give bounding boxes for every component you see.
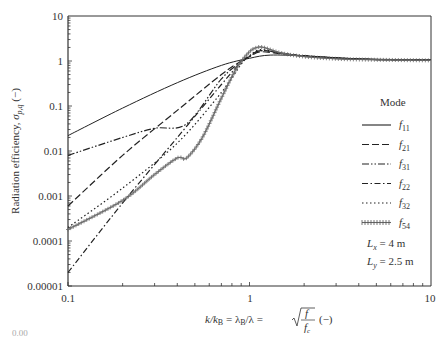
dim-lx: Lx = 4 m [366, 237, 406, 252]
legend: Mode f11f21f31f22f32f54 [362, 96, 410, 231]
y-axis-title: Radiation efficiency, σp,q (−) [9, 88, 24, 214]
x-tick-10: 10 [425, 292, 437, 304]
legend-label: f31 [399, 157, 410, 172]
x-tick-1: 1 [247, 292, 253, 304]
x-axis-title: k/kB = λB/λ = f fc (−) [205, 307, 333, 335]
y-tick-0.001: 0.001 [38, 190, 63, 202]
y-tick-0.1: 0.1 [49, 100, 63, 112]
series-f31 [68, 51, 431, 156]
legend-item-f11: f11 [362, 118, 410, 133]
x-tick-0.1: 0.1 [61, 292, 75, 304]
y-tick-0.00001: 0.00001 [27, 280, 63, 292]
legend-label: f21 [399, 138, 410, 153]
svg-text:(−): (−) [319, 313, 333, 326]
series-f21 [68, 52, 431, 206]
legend-label: f54 [399, 216, 410, 231]
cropped-text: 0.00 [12, 328, 28, 337]
svg-text:k/kB = λB/λ =: k/kB = λB/λ = [205, 313, 263, 327]
plate-dimensions: Lx = 4 m Ly = 2.5 m [366, 237, 414, 270]
svg-text:fc: fc [304, 321, 311, 335]
legend-item-f32: f32 [362, 196, 410, 211]
x-axis-tick-labels: 0.1 1 10 [61, 292, 436, 304]
series-f54 [66, 45, 431, 231]
radiation-efficiency-chart: 10 1 0.1 0.01 0.001 0.0001 0.00001 0.1 1… [0, 0, 444, 337]
svg-text:f: f [305, 307, 310, 319]
legend-item-f21: f21 [362, 138, 410, 153]
y-tick-0.01: 0.01 [44, 145, 63, 157]
legend-label: f32 [399, 196, 410, 211]
legend-title: Mode [380, 96, 406, 108]
legend-item-f31: f31 [362, 157, 410, 172]
series-f11 [68, 55, 431, 136]
y-tick-10: 10 [52, 10, 64, 22]
dim-ly: Ly = 2.5 m [366, 255, 414, 270]
y-tick-1: 1 [58, 55, 64, 67]
legend-item-f54: f54 [362, 216, 410, 231]
legend-label: f11 [399, 118, 410, 133]
legend-label: f22 [399, 177, 410, 192]
legend-item-f22: f22 [362, 177, 410, 192]
y-axis-tick-labels: 10 1 0.1 0.01 0.001 0.0001 0.00001 [27, 10, 63, 292]
y-tick-0.0001: 0.0001 [33, 235, 63, 247]
